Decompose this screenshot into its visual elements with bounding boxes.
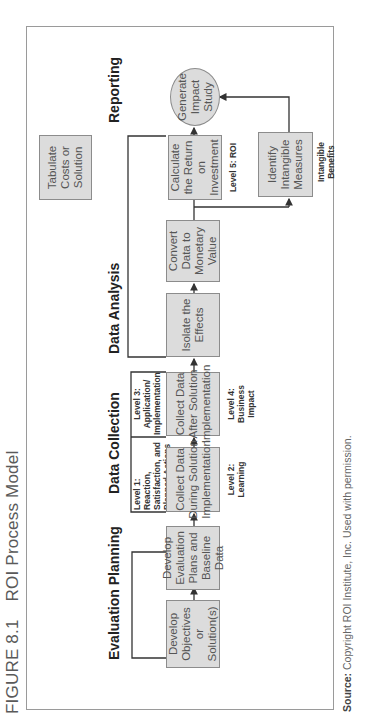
box-calculate-roi: Calculate the Return on Investment [168,135,222,200]
phase-data-collection: Data Collection [106,392,122,494]
box-collect-during: Collect Data During Solution Implementat… [166,447,220,512]
source-note: Source: Copyright ROI Institute, Inc. Us… [341,435,353,712]
box-collect-after: Collect Data After Solution Implementati… [166,372,220,436]
phase-reporting: Reporting [106,57,122,123]
level-3-label: Level 3: Application/ Implementation [132,373,162,435]
level-5-label: Level 5: ROI [228,135,238,200]
intangible-benefits-label: Intangible Benefits [316,127,336,197]
ellipse-generate-impact-study: Generate Impact Study [170,68,220,126]
diagram-canvas: FIGURE 8.1ROI Process Model [0,0,365,726]
box-convert-data: Convert Data to Monetary Value [166,220,220,282]
box-develop-plans: Develop Evaluation Plans and Baseline Da… [166,526,220,590]
source-label: Source: [341,673,353,712]
box-develop-objectives: Develop Objectives or Solution(s) [166,600,220,668]
phase-evaluation-planning: Evaluation Planning [106,526,122,660]
level-4-label: Level 4: Business Impact [226,372,256,436]
box-tabulate-costs: Tabulate Costs or Solution [39,135,92,200]
box-identify-intangible: Identify Intangible Measures [258,132,313,197]
level-2-label: Level 2: Learning [226,447,246,512]
source-text: Copyright ROI Institute, Inc. Used with … [341,435,353,670]
phase-data-analysis: Data Analysis [106,263,122,354]
box-isolate-effects: Isolate the Effects [166,293,220,357]
